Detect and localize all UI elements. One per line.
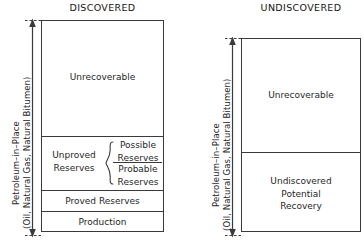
unproved-line-1: Unproved bbox=[43, 149, 105, 162]
panel-title-discovered: DISCOVERED bbox=[41, 2, 164, 13]
axis-caption-left-line1: Petroleum–in–Place bbox=[11, 121, 21, 205]
segment-label-production: Production bbox=[41, 216, 164, 229]
undisc-line-3: Recovery bbox=[241, 200, 361, 213]
segment-label-unproved-reserves: Unproved Reserves bbox=[43, 149, 105, 174]
probable-line-1: Probable bbox=[113, 163, 163, 176]
undisc-line-1: Undiscovered bbox=[241, 175, 361, 188]
divider-unrecoverable-unproved bbox=[41, 136, 164, 137]
divider-unproved-proved bbox=[41, 190, 164, 191]
segment-label-proved-reserves: Proved Reserves bbox=[41, 195, 164, 208]
segment-label-possible-reserves: Possible Reserves bbox=[113, 139, 163, 164]
divider-proved-production bbox=[41, 211, 164, 212]
segment-label-unrecoverable-undiscovered: Unrecoverable bbox=[241, 89, 361, 102]
undisc-line-2: Potential bbox=[241, 188, 361, 201]
axis-caption-left-line2: (Oil, Natural Gas, Natural Bitumen) bbox=[22, 77, 32, 230]
diagram-canvas: DISCOVERED UNDISCOVERED Unrecoverable Un… bbox=[0, 0, 364, 242]
segment-label-probable-reserves: Probable Reserves bbox=[113, 163, 163, 188]
possible-line-1: Possible bbox=[113, 139, 163, 152]
probable-line-2: Reserves bbox=[113, 176, 163, 189]
divider-unrecoverable-potential bbox=[241, 152, 361, 153]
axis-caption-right-line1: Petroleum–in–Place bbox=[211, 123, 221, 207]
unproved-line-2: Reserves bbox=[43, 162, 105, 175]
segment-label-unrecoverable-discovered: Unrecoverable bbox=[41, 71, 164, 84]
segment-label-undiscovered-potential-recovery: Undiscovered Potential Recovery bbox=[241, 175, 361, 213]
axis-caption-right-line2: (Oil, Natural Gas, Natural Bitumen) bbox=[222, 79, 232, 232]
panel-title-undiscovered: UNDISCOVERED bbox=[241, 2, 361, 13]
